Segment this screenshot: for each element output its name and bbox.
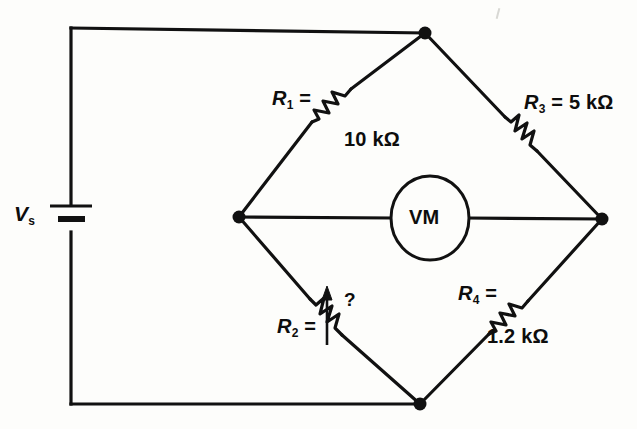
resistor-r4-value: 1.2 kΩ <box>487 326 549 346</box>
node-bottom-dot <box>414 398 427 411</box>
wire-r4-upper <box>528 219 602 301</box>
wire-r3-upper <box>425 33 505 117</box>
r2-suffix: = <box>299 315 317 337</box>
resistor-r1-zigzag <box>312 89 351 122</box>
resistor-r3-zigzag <box>505 115 537 151</box>
circuit-schematic-svg <box>0 0 637 429</box>
resistor-r2-label: R2 = <box>277 316 316 336</box>
wire-r4-lower <box>420 334 489 404</box>
r3-subscript: 3 <box>539 102 546 116</box>
wire-r2-upper <box>239 217 310 299</box>
wire-meter-right <box>468 218 602 219</box>
wire-top <box>71 28 425 33</box>
battery-symbol <box>50 206 92 219</box>
r4-suffix: = <box>480 282 498 304</box>
resistor-r1-value: 10 kΩ <box>344 129 400 149</box>
r4-subscript: 4 <box>473 293 480 307</box>
resistor-r3-label: R3 = 5 kΩ <box>524 92 614 112</box>
r2-subscript: 2 <box>292 326 299 340</box>
voltmeter-label: VM <box>409 207 439 227</box>
variable-arrow-head <box>322 286 332 300</box>
node-top-dot <box>419 27 432 40</box>
r1-suffix: = <box>294 87 312 109</box>
wire-r1-upper <box>351 33 425 89</box>
r3-suffix: = 5 kΩ <box>546 91 614 113</box>
wire-r1-lower <box>239 122 312 217</box>
source-label-subscript: s <box>28 214 35 228</box>
resistor-r4-label: R4 = <box>458 283 497 303</box>
node-left-dot <box>233 211 246 224</box>
source-label: Vs <box>14 203 35 224</box>
node-right-dot <box>596 213 609 226</box>
wire-r2-lower <box>342 335 420 404</box>
wire-r3-lower <box>537 151 602 219</box>
resistor-r1-label: R1 = <box>272 88 311 108</box>
circuit-diagram-canvas: Vs R1 = 10 kΩ R3 = 5 kΩ R2 = ? R4 = 1.2 … <box>0 0 637 429</box>
wire-meter-left <box>239 217 392 218</box>
resistor-r2-value: ? <box>344 290 356 309</box>
r1-subscript: 1 <box>287 98 294 112</box>
